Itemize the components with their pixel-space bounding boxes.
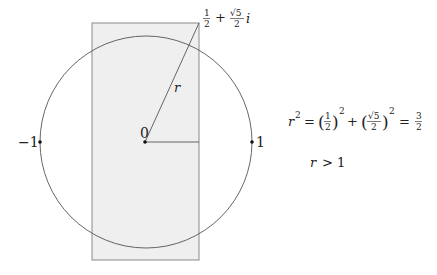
eq-equals-1: = bbox=[304, 114, 315, 129]
complex-plane-diagram: −1 0 1 r 1 2 + √5 2 i r 2 = ( 1 2 ) 2 + … bbox=[0, 0, 437, 275]
point-one bbox=[250, 140, 254, 144]
cp-sqrt5-den: 2 bbox=[234, 19, 240, 29]
eq-lhs-exp: 2 bbox=[295, 110, 301, 120]
eq-equals-2: = bbox=[399, 114, 410, 129]
cp-plus: + bbox=[215, 10, 226, 25]
cp-sqrt5: √5 bbox=[230, 8, 242, 18]
point-minus-one bbox=[38, 140, 42, 144]
ineq-op: > bbox=[322, 155, 333, 170]
eq-lhs: r bbox=[288, 114, 295, 129]
eq-plus: + bbox=[347, 114, 358, 129]
eq-paren-open-2: ( bbox=[361, 112, 368, 132]
label-r: r bbox=[174, 80, 181, 95]
eq-t1-exp: 2 bbox=[339, 106, 345, 116]
label-minus-one: −1 bbox=[18, 134, 39, 150]
eq-res-num: 3 bbox=[416, 111, 422, 121]
eq-t2-num: √5 bbox=[368, 111, 380, 121]
eq-paren-close-1: ) bbox=[332, 112, 339, 132]
cp-half-den: 2 bbox=[204, 19, 210, 29]
corner-point-label: 1 2 + √5 2 i bbox=[203, 8, 250, 29]
label-one: 1 bbox=[256, 134, 265, 150]
ineq-value: 1 bbox=[337, 155, 345, 170]
eq-t1-den: 2 bbox=[325, 122, 331, 132]
eq-res-den: 2 bbox=[416, 122, 422, 132]
radius-squared-equation: r 2 = ( 1 2 ) 2 + ( √5 2 ) 2 = 3 2 bbox=[288, 106, 422, 132]
cp-half-num: 1 bbox=[204, 8, 210, 18]
inequality-r-greater-than-one: r > 1 bbox=[310, 155, 345, 170]
eq-t1-num: 1 bbox=[325, 111, 331, 121]
label-zero: 0 bbox=[140, 125, 149, 141]
eq-paren-open-1: ( bbox=[318, 112, 325, 132]
cp-i: i bbox=[246, 11, 250, 26]
eq-t2-exp: 2 bbox=[389, 106, 395, 116]
ineq-r: r bbox=[310, 155, 317, 170]
eq-t2-den: 2 bbox=[371, 122, 377, 132]
eq-paren-close-2: ) bbox=[382, 112, 389, 132]
